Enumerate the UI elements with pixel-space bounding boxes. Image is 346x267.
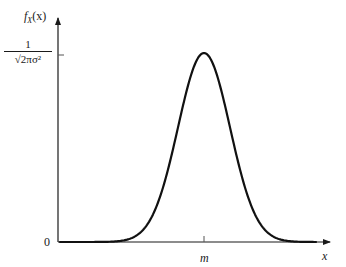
peak-numerator: 1 [2,38,54,50]
x-axis-label: x [322,250,327,262]
y-axis-label-arg: (x) [32,9,46,23]
gaussian-curve [60,53,316,242]
peak-value-label: 1 √2πσ² [2,38,54,66]
peak-denominator: √2πσ² [2,53,54,66]
fraction-bar [4,51,52,52]
y-axis-label: fX(x) [24,10,46,25]
origin-label: 0 [44,236,50,248]
mean-label: m [200,252,209,264]
